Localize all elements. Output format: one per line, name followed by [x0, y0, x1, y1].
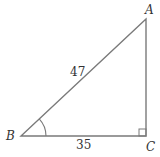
vertex-label-a: A: [145, 4, 154, 16]
vertex-label-b: B: [6, 130, 15, 142]
base-length-label: 35: [76, 139, 91, 151]
vertex-label-c: C: [146, 141, 155, 153]
right-angle-mark: [139, 129, 146, 136]
hypotenuse-length-label: 47: [70, 66, 85, 78]
triangle-diagram: A B C 47 35: [0, 0, 160, 157]
angle-arc-b: [39, 119, 46, 136]
